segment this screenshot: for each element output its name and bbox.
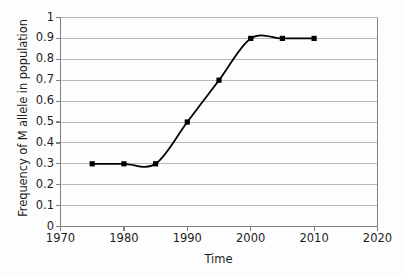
x-axis-tick-marks <box>61 227 378 232</box>
y-axis-tick-marks <box>56 18 61 227</box>
plot-area <box>0 0 405 276</box>
chart-figure: Frequency of M allele in population 00.1… <box>0 0 405 276</box>
x-axis-title: Time <box>60 252 377 266</box>
gridlines <box>61 18 378 227</box>
